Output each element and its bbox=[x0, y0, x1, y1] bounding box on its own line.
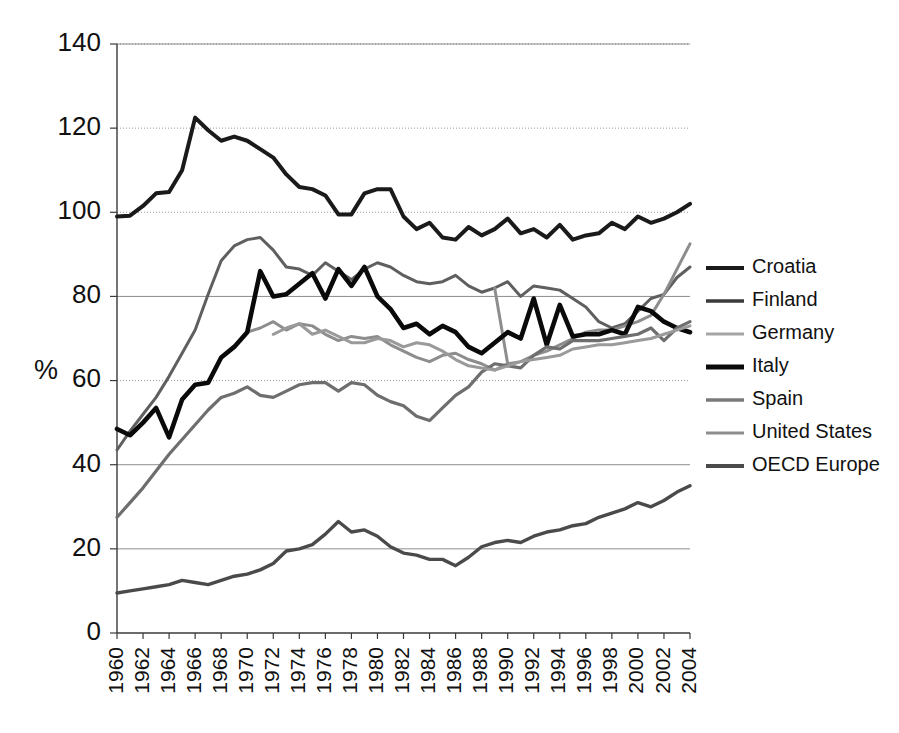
y-tick-label-120: 120 bbox=[58, 111, 101, 141]
x-tick-label-1996: 1996 bbox=[572, 647, 595, 694]
series-line-germany bbox=[247, 244, 690, 370]
y-tick-label-140: 140 bbox=[58, 27, 101, 57]
legend-label-spain: Spain bbox=[752, 387, 803, 409]
y-axis-title-text: % bbox=[34, 355, 58, 385]
x-tick-label-2000: 2000 bbox=[624, 647, 647, 694]
y-axis-title: % bbox=[34, 355, 58, 385]
y-tick-label-60: 60 bbox=[72, 363, 101, 393]
series-line-oecd-europe bbox=[117, 486, 690, 593]
x-tick-label-1974: 1974 bbox=[286, 647, 309, 694]
x-tick-label-1984: 1984 bbox=[416, 647, 439, 694]
x-tick-labels: 1960196219641966196819701972197419761978… bbox=[104, 647, 700, 694]
y-tick-label-0: 0 bbox=[87, 616, 101, 646]
x-tick-label-1980: 1980 bbox=[364, 647, 387, 694]
legend-label-italy: Italy bbox=[752, 354, 789, 376]
legend-label-finland: Finland bbox=[752, 288, 818, 310]
series-lines bbox=[117, 118, 690, 593]
x-tick-label-1966: 1966 bbox=[182, 647, 205, 694]
x-tick-label-1964: 1964 bbox=[156, 647, 179, 694]
x-tick-label-1994: 1994 bbox=[546, 647, 569, 694]
x-tick-label-1978: 1978 bbox=[338, 647, 361, 694]
line-chart-svg: 140120100806040200 196019621964196619681… bbox=[0, 0, 899, 733]
x-tick-label-1988: 1988 bbox=[468, 647, 491, 694]
x-tick-label-1982: 1982 bbox=[390, 647, 413, 694]
x-tick-label-1986: 1986 bbox=[442, 647, 465, 694]
series-line-germany-break bbox=[495, 288, 508, 364]
x-tick-label-1992: 1992 bbox=[520, 647, 543, 694]
legend-label-united-states: United States bbox=[752, 420, 872, 442]
series-line-croatia bbox=[117, 118, 690, 240]
x-tick-label-1962: 1962 bbox=[130, 647, 153, 694]
x-tick-label-1970: 1970 bbox=[234, 647, 257, 694]
x-tick-label-1972: 1972 bbox=[260, 647, 283, 694]
legend-label-germany: Germany bbox=[752, 321, 834, 343]
chart-figure: 140120100806040200 196019621964196619681… bbox=[0, 0, 899, 733]
x-tick-label-2002: 2002 bbox=[651, 647, 674, 694]
x-tick-label-1968: 1968 bbox=[208, 647, 231, 694]
y-tick-label-20: 20 bbox=[72, 532, 101, 562]
x-tick-label-1976: 1976 bbox=[312, 647, 335, 694]
gridlines bbox=[117, 44, 690, 549]
y-tick-labels: 140120100806040200 bbox=[58, 27, 101, 646]
x-tick-label-1998: 1998 bbox=[598, 647, 621, 694]
y-tick-label-100: 100 bbox=[58, 195, 101, 225]
x-tick-label-2004: 2004 bbox=[677, 647, 700, 694]
legend-label-oecd-europe: OECD Europe bbox=[752, 453, 880, 475]
legend-label-croatia: Croatia bbox=[752, 255, 817, 277]
y-tick-label-80: 80 bbox=[72, 279, 101, 309]
x-tick-label-1990: 1990 bbox=[494, 647, 517, 694]
x-tick-label-1960: 1960 bbox=[104, 647, 127, 694]
chart-legend: CroatiaFinlandGermanyItalySpainUnited St… bbox=[706, 255, 880, 475]
y-tick-label-40: 40 bbox=[72, 448, 101, 478]
